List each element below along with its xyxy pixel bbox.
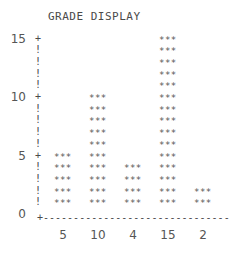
bar-segment: *** (124, 164, 142, 173)
y-tick-label: 5 (4, 150, 26, 162)
bar-segment: *** (89, 188, 107, 197)
y-axis-line: ! (35, 186, 41, 196)
bar-segment: *** (159, 47, 177, 56)
y-axis-tick: + (35, 151, 41, 161)
y-axis-line: ! (35, 127, 41, 137)
bar-segment: *** (89, 199, 107, 208)
bar-segment: *** (89, 129, 107, 138)
y-tick-label: 0 (4, 208, 26, 220)
bar-segment: *** (159, 106, 177, 115)
bar-segment: *** (54, 199, 72, 208)
y-tick-label: 15 (4, 33, 26, 45)
bar-segment: *** (124, 199, 142, 208)
bar-segment: *** (159, 94, 177, 103)
bar-segment: *** (159, 188, 177, 197)
bar-segment: *** (159, 82, 177, 91)
bar-segment: *** (89, 164, 107, 173)
bar-segment: *** (89, 176, 107, 185)
y-axis-line: ! (35, 162, 41, 172)
bar-segment: *** (159, 164, 177, 173)
bar-segment: *** (89, 153, 107, 162)
bar-segment: *** (159, 71, 177, 80)
bar-segment: *** (89, 94, 107, 103)
x-category-label: 5 (48, 228, 78, 242)
bar-segment: *** (159, 141, 177, 150)
y-axis-tick: + (35, 34, 41, 44)
y-axis-line: ! (35, 115, 41, 125)
bar-segment: *** (54, 176, 72, 185)
bar-segment: *** (194, 188, 212, 197)
bar-segment: *** (159, 199, 177, 208)
y-axis-tick: + (35, 92, 41, 102)
bar-segment: *** (159, 36, 177, 45)
y-axis-line: ! (35, 197, 41, 207)
bar-segment: *** (89, 141, 107, 150)
x-category-label: 15 (153, 228, 183, 242)
y-axis-line: ! (35, 80, 41, 90)
bar-segment: *** (54, 188, 72, 197)
bar-segment: *** (159, 129, 177, 138)
x-category-label: 10 (83, 228, 113, 242)
y-axis-line: ! (35, 174, 41, 184)
bar-segment: *** (159, 59, 177, 68)
bar-segment: *** (194, 199, 212, 208)
y-axis-line: ! (35, 69, 41, 79)
bar-segment: *** (54, 153, 72, 162)
bar-segment: *** (54, 164, 72, 173)
bar-segment: *** (159, 117, 177, 126)
y-axis-line: ! (35, 57, 41, 67)
y-tick-label: 10 (4, 91, 26, 103)
bar-segment: *** (124, 176, 142, 185)
bar-segment: *** (124, 188, 142, 197)
bar-segment: *** (159, 153, 177, 162)
bar-segment: *** (159, 176, 177, 185)
y-axis-line: ! (35, 104, 41, 114)
x-category-label: 2 (188, 228, 218, 242)
bar-segment: *** (89, 117, 107, 126)
y-axis-line: ! (35, 45, 41, 55)
chart-title: GRADE DISPLAY (48, 10, 141, 23)
bar-segment: *** (89, 106, 107, 115)
x-axis: +------------------------------- (37, 212, 230, 223)
x-category-label: 4 (118, 228, 148, 242)
y-axis-line: ! (35, 139, 41, 149)
